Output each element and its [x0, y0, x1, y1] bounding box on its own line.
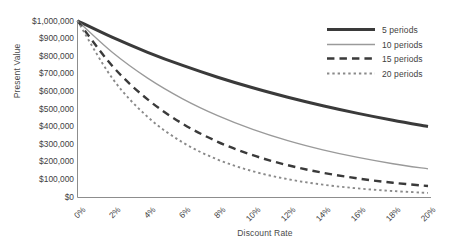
legend: 5 periods 10 periods 15 periods 20 perio…	[327, 22, 455, 81]
legend-item: 5 periods	[327, 22, 455, 37]
legend-label: 15 periods	[382, 54, 423, 64]
present-value-chart: Present Value Discount Rate $1,000,000 $…	[0, 0, 455, 246]
legend-item: 15 periods	[327, 51, 455, 66]
legend-swatch-5-periods	[327, 22, 375, 37]
legend-label: 5 periods	[382, 25, 418, 35]
legend-swatch-10-periods	[327, 37, 375, 52]
legend-swatch-20-periods	[327, 66, 375, 81]
legend-swatch-15-periods	[327, 51, 375, 66]
legend-label: 20 periods	[382, 69, 423, 79]
legend-item: 20 periods	[327, 66, 455, 81]
legend-item: 10 periods	[327, 37, 455, 52]
legend-label: 10 periods	[382, 40, 423, 50]
